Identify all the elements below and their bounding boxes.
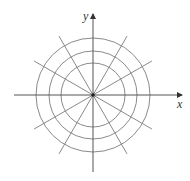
origin-dot	[91, 93, 95, 97]
radial-line-60	[93, 36, 127, 95]
radial-line-330	[93, 95, 152, 129]
radial-line-210	[34, 95, 93, 129]
polar-grid-diagram: x y	[0, 0, 190, 181]
radial-line-150	[34, 61, 93, 95]
x-axis-label: x	[176, 97, 183, 111]
radial-line-30	[93, 61, 152, 95]
y-axis-label: y	[82, 9, 89, 23]
radial-line-300	[93, 95, 127, 154]
radial-line-120	[59, 36, 93, 95]
radial-line-240	[59, 95, 93, 154]
